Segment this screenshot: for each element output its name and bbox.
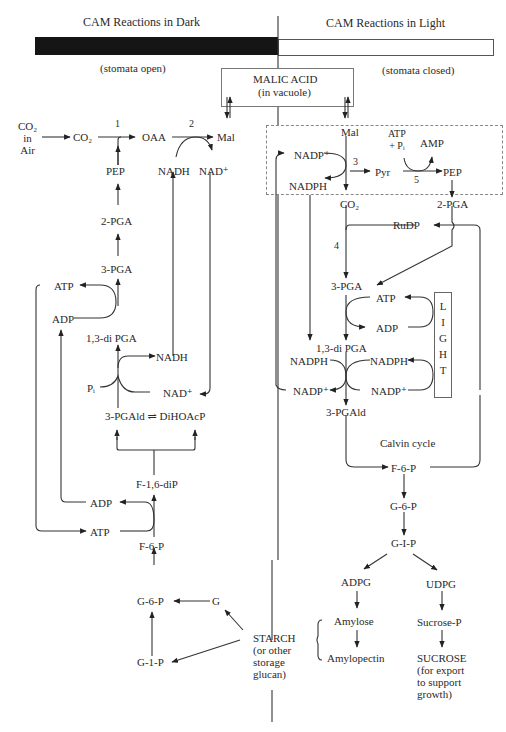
light-rudp: RuDP xyxy=(393,219,420,231)
light-3pgald: 3-PGAld xyxy=(326,406,366,418)
dark-atp-lower: ATP xyxy=(90,526,110,538)
step-1: 1 xyxy=(115,118,120,130)
light-nadph-right: NADPH xyxy=(370,355,408,367)
amylose: Amylose xyxy=(334,615,374,627)
light-mal: Mal xyxy=(341,126,359,138)
step-5: 5 xyxy=(414,174,419,186)
light-nadp-top: NADP⁺ xyxy=(294,149,330,161)
starch: STARCH (or other storage glucan) xyxy=(253,632,296,680)
light-2pga: 2-PGA xyxy=(437,198,468,210)
sucrose-p: Sucrose-P xyxy=(417,616,462,628)
light-nadp-left: NADP⁺ xyxy=(293,385,329,397)
light-3pga: 3-PGA xyxy=(331,280,362,292)
dark-13dipga: 1,3-di PGA xyxy=(86,332,137,344)
light-atp-pi: ATP + Pᵢ xyxy=(388,128,406,152)
step-2: 2 xyxy=(189,118,194,130)
light-atp: ATP xyxy=(376,292,396,304)
dark-g: G xyxy=(212,595,220,607)
calvin-cycle-label: Calvin cycle xyxy=(380,437,435,449)
dark-co2: CO₂ xyxy=(73,131,92,143)
sucrose: SUCROSE (for export to support growth) xyxy=(417,652,467,700)
light-nadph-top: NADPH xyxy=(289,180,327,192)
light-nadp-right: NADP⁺ xyxy=(371,385,407,397)
amylopectin: Amylopectin xyxy=(327,652,384,664)
dark-pgald-dihoacp: 3-PGAld ⇌ DiHOAcP xyxy=(105,410,205,422)
dark-g1p: G-1-P xyxy=(137,656,164,668)
light-amp: AMP xyxy=(420,137,444,149)
light-g1p: G-I-P xyxy=(391,537,416,549)
dark-g6p: G-6-P xyxy=(137,595,164,607)
dark-f6p: F-6-P xyxy=(139,540,164,552)
dark-adp-lower: ADP xyxy=(90,497,112,509)
light-13dipga: 1,3-di PGA xyxy=(316,342,367,354)
dark-mal: Mal xyxy=(217,131,235,143)
udpg: UDPG xyxy=(426,578,456,590)
dark-atp-upper: ATP xyxy=(54,280,74,292)
dark-adp-upper: ADP xyxy=(52,313,74,325)
light-pyr: Pyr xyxy=(375,166,390,178)
light-co2: CO₂ xyxy=(340,198,359,210)
adpg: ADPG xyxy=(341,576,371,588)
dark-f16dip: F-1,6-diP xyxy=(136,478,178,490)
dark-3pga: 3-PGA xyxy=(101,263,132,275)
dark-nadh-mid: NADH xyxy=(156,351,188,363)
light-g6p: G-6-P xyxy=(390,500,417,512)
dark-nadh-top: NADH xyxy=(158,165,190,177)
dark-pep: PEP xyxy=(106,165,125,177)
co2-in-air: CO₂ in Air xyxy=(18,120,37,156)
light-adp: ADP xyxy=(376,322,398,334)
dark-2pga: 2-PGA xyxy=(101,215,132,227)
light-f6p: F-6-P xyxy=(391,462,416,474)
step-4: 4 xyxy=(334,240,339,252)
light-pep: PEP xyxy=(443,166,462,178)
light-nadph-left: NADPH xyxy=(290,355,328,367)
dark-oaa: OAA xyxy=(142,131,166,143)
dark-pi: Pᵢ xyxy=(87,382,95,394)
dark-nad-top: NAD⁺ xyxy=(199,165,229,177)
step-3: 3 xyxy=(353,156,358,168)
dark-nad-mid: NAD⁺ xyxy=(163,387,193,399)
